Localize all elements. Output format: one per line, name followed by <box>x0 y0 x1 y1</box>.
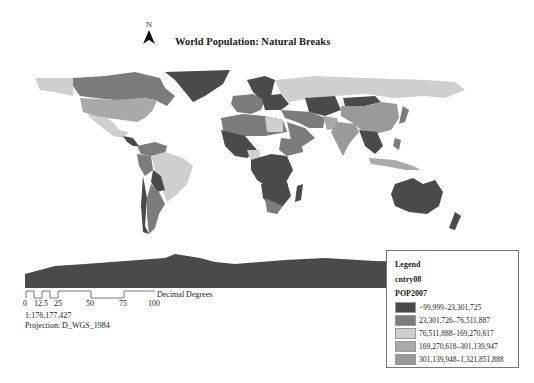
scale-tick-5: 100 <box>148 299 160 308</box>
legend-swatch <box>395 315 416 326</box>
indonesia <box>369 158 421 170</box>
argentina <box>147 184 165 234</box>
madagascar <box>295 184 303 202</box>
legend-class-label: 301,139,948–1,321,851,888 <box>419 355 503 364</box>
central-america <box>123 136 139 146</box>
scale-tick-0: 0 <box>23 299 27 308</box>
legend-class-1: −99,999–23,301,725 <box>395 302 481 313</box>
philippines <box>393 138 401 150</box>
legend-class-3: 76,511,888–169,270,617 <box>395 328 494 339</box>
scale-tick-3: 50 <box>86 299 94 308</box>
egypt <box>265 116 283 132</box>
legend-class-2: 23,301,726–76,511,887 <box>395 315 490 326</box>
projection-label: Projection: D_WGS_1984 <box>25 321 110 330</box>
legend-layer: cntry08 <box>395 275 421 284</box>
legend-heading: Legend <box>395 260 420 269</box>
australia <box>391 178 443 214</box>
north-arrow-icon <box>143 30 155 44</box>
greenland <box>165 70 230 102</box>
ethiopia <box>279 138 303 156</box>
peru <box>137 154 153 176</box>
scale-tick-2: 25 <box>54 299 62 308</box>
se-asia <box>359 130 383 154</box>
legend-class-4: 169,270,618–301,139,947 <box>395 341 498 352</box>
legend-class-label: 23,301,726–76,511,887 <box>419 316 490 325</box>
legend-class-label: −99,999–23,301,725 <box>419 303 481 312</box>
map-title: World Population: Natural Breaks <box>175 36 330 47</box>
legend-class-label: 76,511,888–169,270,617 <box>419 329 494 338</box>
legend-swatch <box>395 354 416 365</box>
new-zealand <box>449 212 461 230</box>
scale-units: Decimal Degrees <box>157 290 212 299</box>
scale-tick-4: 75 <box>119 299 127 308</box>
scale-tick-1: 12.5 <box>34 299 48 308</box>
alaska <box>35 78 73 96</box>
north-arrow: N <box>141 21 157 48</box>
india <box>331 122 359 156</box>
legend-swatch <box>395 341 416 352</box>
legend-swatch <box>395 328 416 339</box>
legend-field: POP2007 <box>395 289 427 298</box>
legend: Legend cntry08 POP2007 −99,999–23,301,72… <box>386 250 519 368</box>
scale-ratio: 1:176,177,427 <box>25 311 71 320</box>
north-label: N <box>141 21 157 29</box>
japan <box>399 106 409 124</box>
legend-swatch <box>395 302 416 313</box>
legend-class-5: 301,139,948–1,321,851,888 <box>395 354 503 365</box>
legend-class-label: 169,270,618–301,139,947 <box>419 342 498 351</box>
